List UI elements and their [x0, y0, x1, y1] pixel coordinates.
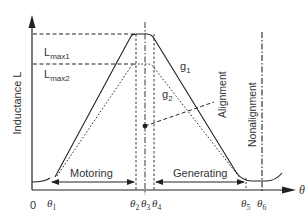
theta1-label: θ1: [47, 197, 56, 212]
curve-g1-label: g1: [180, 60, 191, 75]
nonalignment-label: Nonalignment: [246, 82, 258, 147]
lmax2-label: Lmax2: [44, 68, 70, 83]
alignment-pointer-line: [145, 102, 214, 126]
svg-text:g1: g1: [180, 60, 191, 75]
theta4-label: θ4: [152, 197, 161, 212]
generating-label: Generating: [173, 167, 227, 179]
svg-text:θ3: θ3: [141, 197, 150, 212]
y-axis-label: Inductance L: [11, 72, 23, 135]
svg-text:θ2: θ2: [130, 197, 139, 212]
y-axis: [29, 15, 36, 190]
theta3-label: θ3: [141, 197, 150, 212]
svg-text:θ4: θ4: [152, 197, 161, 212]
theta2-label: θ2: [130, 197, 139, 212]
curve-g2: [57, 64, 240, 178]
origin-label: 0: [30, 199, 36, 211]
alignment-label: Alignment: [216, 71, 228, 118]
svg-text:θ6: θ6: [257, 197, 266, 212]
y-axis-arrow-icon: [29, 15, 36, 28]
x-axis-arrow-icon: [282, 187, 296, 194]
svg-text:θ1: θ1: [47, 197, 56, 212]
lmax1-label: Lmax1: [44, 46, 70, 61]
motoring-label: Motoring: [70, 167, 113, 179]
inductance-diagram: Motoring Generating Inductance L Lmax1 L…: [0, 0, 307, 217]
x-axis-label: θ: [299, 183, 305, 197]
svg-text:Lmax2: Lmax2: [44, 68, 70, 83]
theta5-label: θ5: [241, 197, 250, 212]
svg-text:Lmax1: Lmax1: [44, 46, 70, 61]
svg-text:θ5: θ5: [241, 197, 250, 212]
x-axis: [32, 187, 296, 194]
theta6-label: θ6: [257, 197, 266, 212]
